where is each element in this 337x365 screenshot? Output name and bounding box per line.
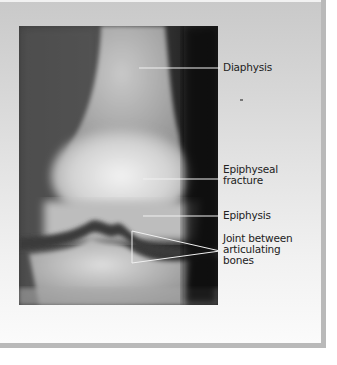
speck-mark [240, 99, 243, 101]
leader-triangle-joint [132, 231, 220, 263]
label-epiphyseal-line2: fracture [223, 175, 278, 186]
label-epiphysis-text: Epiphysis [223, 210, 271, 221]
figure-panel: Diaphysis Epiphyseal fracture Epiphysis … [0, 0, 326, 348]
label-epiphyseal-fracture: Epiphyseal fracture [223, 164, 278, 186]
label-joint: Joint between articulating bones [223, 233, 292, 266]
label-joint-line3: bones [223, 255, 292, 266]
label-epiphysis: Epiphysis [223, 210, 271, 221]
label-diaphysis: Diaphysis [223, 62, 272, 73]
label-diaphysis-text: Diaphysis [223, 62, 272, 73]
